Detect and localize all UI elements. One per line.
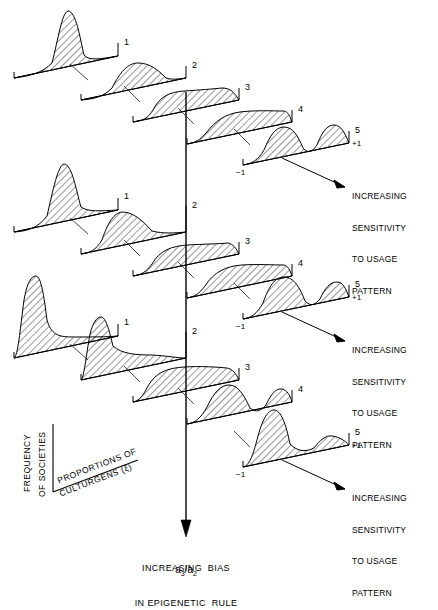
bias-formula: a3/a2 bbox=[93, 564, 279, 577]
panel-group-3 bbox=[14, 276, 349, 490]
sensitivity-annotation-3: INCREASING SENSITIVITY TO USAGE PATTERN bbox=[352, 472, 407, 609]
panel-number-1-1: 1 bbox=[124, 37, 129, 47]
panel-number-2-4: 4 bbox=[298, 258, 303, 268]
sensitivity-line-1b: SENSITIVITY bbox=[352, 223, 407, 234]
panel-number-3-4: 4 bbox=[298, 384, 303, 394]
sensitivity-line-3b: SENSITIVITY bbox=[352, 525, 407, 536]
y-axis-label-line2: OF SOCIETIES bbox=[37, 431, 47, 497]
panel-number-1-5: 5 bbox=[355, 125, 360, 135]
sensitivity-line-3d: PATTERN bbox=[352, 588, 407, 599]
panel-number-2-3: 3 bbox=[245, 236, 250, 246]
panel-1-1 bbox=[14, 11, 118, 78]
sensitivity-line-1d: PATTERN bbox=[352, 286, 407, 297]
panel-2-1 bbox=[14, 164, 118, 232]
axis-end-left-1: −1 bbox=[236, 168, 245, 177]
panel-3-5 bbox=[234, 410, 349, 467]
sensitivity-line-2d: PATTERN bbox=[352, 440, 407, 451]
sensitivity-line-1c: TO USAGE bbox=[352, 254, 407, 265]
panel-number-1-4: 4 bbox=[298, 104, 303, 114]
bias-axis-arrow bbox=[181, 92, 191, 537]
panel-number-2-1: 1 bbox=[124, 191, 129, 201]
panel-number-3-2: 2 bbox=[192, 326, 197, 336]
bias-caption-line2: IN EPIGENETIC RULE bbox=[93, 598, 279, 610]
panel-group-1 bbox=[14, 11, 349, 188]
sensitivity-line-3a: INCREASING bbox=[352, 493, 407, 504]
panel-group-2 bbox=[14, 164, 349, 342]
panel-number-3-1: 1 bbox=[124, 317, 129, 327]
panel-number-3-3: 3 bbox=[245, 362, 250, 372]
panel-1-3 bbox=[124, 86, 239, 122]
sensitivity-line-2b: SENSITIVITY bbox=[352, 377, 407, 388]
axis-end-left-3: −1 bbox=[236, 470, 245, 479]
formula-denominator-sub: 2 bbox=[193, 570, 197, 577]
sensitivity-line-2c: TO USAGE bbox=[352, 408, 407, 419]
sensitivity-line-2a: INCREASING bbox=[352, 345, 407, 356]
panel-number-1-3: 3 bbox=[245, 82, 250, 92]
sensitivity-annotation-1: INCREASING SENSITIVITY TO USAGE PATTERN bbox=[352, 170, 407, 307]
sensitivity-annotation-2: INCREASING SENSITIVITY TO USAGE PATTERN bbox=[352, 324, 407, 461]
panel-number-1-2: 2 bbox=[192, 60, 197, 70]
panel-number-2-2: 2 bbox=[192, 200, 197, 210]
axis-end-left-2: −1 bbox=[236, 322, 245, 331]
y-axis-label-line1: FREQUENCY bbox=[22, 434, 32, 492]
sensitivity-line-3c: TO USAGE bbox=[352, 556, 407, 567]
axis-end-right-1: +1 bbox=[352, 139, 361, 148]
sensitivity-line-1a: INCREASING bbox=[352, 191, 407, 202]
